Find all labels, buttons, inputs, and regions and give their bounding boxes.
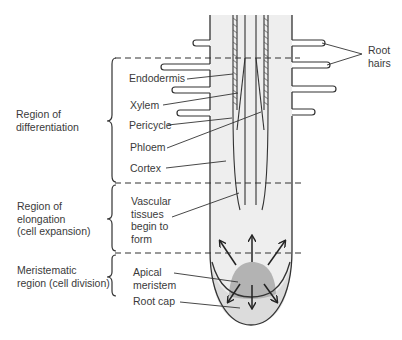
label-pericycle: Pericycle bbox=[129, 119, 172, 132]
region-label-line: (cell expansion) bbox=[17, 225, 91, 238]
region-label-line: elongation bbox=[17, 213, 91, 226]
label-line: begin to bbox=[131, 220, 171, 233]
label-line: form bbox=[131, 233, 171, 246]
label-vascular-tissues: Vascular tissues begin to form bbox=[131, 195, 171, 245]
label-line: Vascular bbox=[131, 195, 171, 208]
region-label-elongation: Region of elongation (cell expansion) bbox=[17, 200, 91, 238]
region-label-line: region (cell division) bbox=[17, 277, 110, 290]
label-root-cap: Root cap bbox=[133, 295, 175, 308]
label-root-hairs: Root hairs bbox=[368, 44, 391, 69]
region-label-line: differentiation bbox=[16, 121, 79, 134]
region-label-line: Meristematic bbox=[17, 264, 110, 277]
label-line: hairs bbox=[368, 57, 391, 70]
region-label-meristematic: Meristematic region (cell division) bbox=[17, 264, 110, 289]
label-xylem: Xylem bbox=[130, 99, 159, 112]
label-line: meristem bbox=[133, 279, 176, 292]
label-line: tissues bbox=[131, 208, 171, 221]
label-line: Root bbox=[368, 44, 391, 57]
root-diagram bbox=[0, 0, 402, 340]
region-label-line: Region of bbox=[17, 200, 91, 213]
label-endodermis: Endodermis bbox=[129, 72, 185, 85]
region-label-differentiation: Region of differentiation bbox=[16, 108, 79, 133]
label-phloem: Phloem bbox=[130, 141, 166, 154]
label-cortex: Cortex bbox=[130, 162, 161, 175]
label-apical-meristem: Apical meristem bbox=[133, 266, 176, 291]
label-line: Apical bbox=[133, 266, 176, 279]
region-braces bbox=[107, 58, 116, 296]
region-label-line: Region of bbox=[16, 108, 79, 121]
